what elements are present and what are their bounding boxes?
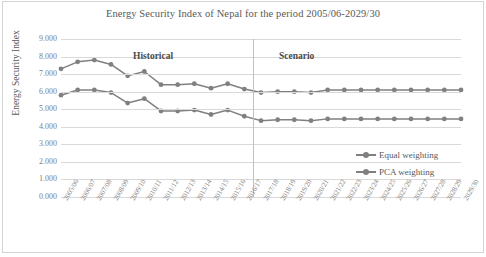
legend-swatch-equal-weighting bbox=[356, 150, 376, 160]
data-point bbox=[325, 116, 330, 121]
y-axis-tick-label: 2.000 bbox=[15, 157, 57, 166]
energy-security-index-chart: Energy Security Index of Nepal for the p… bbox=[0, 0, 486, 257]
y-axis-tick-label: 1.000 bbox=[15, 174, 57, 183]
chart-legend: Equal weighting PCA weighting bbox=[356, 146, 482, 180]
data-point bbox=[309, 118, 314, 123]
x-axis-tick-labels: 2005/062006/072007/082008/092009/102010/… bbox=[61, 198, 461, 256]
data-point bbox=[409, 116, 414, 121]
y-axis-tick-labels: 9.0008.0007.0006.0005.0004.0003.0002.000… bbox=[13, 39, 57, 197]
gridline bbox=[61, 57, 461, 58]
data-point bbox=[275, 117, 280, 122]
data-point bbox=[75, 59, 80, 64]
legend-swatch-pca-weighting bbox=[356, 167, 376, 177]
legend-label-pca-weighting: PCA weighting bbox=[379, 167, 434, 177]
chart-title: Energy Security Index of Nepal for the p… bbox=[0, 8, 486, 19]
historical-scenario-divider bbox=[253, 39, 254, 197]
data-point bbox=[109, 62, 114, 67]
legend-item-pca-weighting[interactable]: PCA weighting bbox=[356, 163, 482, 180]
data-point bbox=[459, 116, 464, 121]
data-point bbox=[259, 118, 264, 123]
data-point bbox=[125, 101, 130, 106]
y-axis-tick-label: 4.000 bbox=[15, 122, 57, 131]
data-point bbox=[375, 116, 380, 121]
gridline bbox=[61, 109, 461, 110]
y-axis-tick-label: 5.000 bbox=[15, 104, 57, 113]
series-equal-weighting bbox=[59, 58, 464, 95]
y-axis-tick-label: 7.000 bbox=[15, 69, 57, 78]
data-point bbox=[442, 116, 447, 121]
gridline bbox=[61, 92, 461, 93]
data-point bbox=[59, 93, 64, 98]
legend-item-equal-weighting[interactable]: Equal weighting bbox=[356, 146, 482, 163]
data-point bbox=[159, 82, 164, 87]
band-label-right: Scenario bbox=[279, 51, 314, 61]
legend-label-equal-weighting: Equal weighting bbox=[379, 150, 438, 160]
data-point bbox=[225, 81, 230, 86]
data-point bbox=[92, 58, 97, 63]
data-point bbox=[392, 116, 397, 121]
y-axis-tick-label: 8.000 bbox=[15, 52, 57, 61]
gridline bbox=[61, 74, 461, 75]
data-point bbox=[192, 81, 197, 86]
band-label-left: Historical bbox=[133, 51, 173, 61]
data-point bbox=[242, 114, 247, 119]
y-axis-tick-label: 3.000 bbox=[15, 139, 57, 148]
data-point bbox=[342, 116, 347, 121]
y-axis-tick-label: 0.000 bbox=[15, 192, 57, 201]
data-point bbox=[209, 86, 214, 91]
data-point bbox=[142, 96, 147, 101]
y-axis-tick-label: 9.000 bbox=[15, 34, 57, 43]
gridline bbox=[61, 127, 461, 128]
data-point bbox=[425, 116, 430, 121]
data-point bbox=[359, 116, 364, 121]
gridline bbox=[61, 39, 461, 40]
data-point bbox=[175, 82, 180, 87]
data-point bbox=[292, 117, 297, 122]
y-axis-tick-label: 6.000 bbox=[15, 87, 57, 96]
series-line bbox=[61, 60, 461, 92]
data-point bbox=[209, 112, 214, 117]
x-axis-tick-label: 2029/30 bbox=[462, 178, 480, 202]
data-point bbox=[59, 66, 64, 71]
